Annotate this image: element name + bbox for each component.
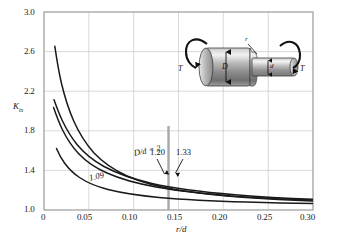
- diagram-label-D: D: [222, 62, 228, 71]
- shaft-large-endcap: [199, 48, 213, 86]
- y-axis-title-subscript: ts: [19, 106, 23, 113]
- y-tick-2-2: 2.2: [24, 86, 35, 96]
- diagram-label-T-left: T: [178, 64, 182, 73]
- curve-label-133: 1.33: [176, 147, 191, 157]
- x-tick-0-30: 0.30: [300, 212, 315, 222]
- y-tick-1-4: 1.4: [24, 165, 35, 175]
- x-tick-0-15: 0.15: [167, 212, 182, 222]
- y-tick-1-8: 1.8: [24, 125, 35, 135]
- diagram-label-r: r: [245, 35, 248, 43]
- y-axis-title: Kts: [13, 101, 23, 113]
- diagram-label-T-right: T: [300, 64, 304, 73]
- y-tick-2-6: 2.6: [24, 46, 35, 56]
- y-tick-3-0: 3.0: [24, 7, 35, 17]
- x-tick-0-20: 0.20: [212, 212, 227, 222]
- x-axis-title: r/d: [176, 224, 187, 234]
- chart-canvas: [0, 0, 341, 245]
- x-tick-0: 0: [41, 212, 45, 222]
- x-tick-0-25: 0.25: [257, 212, 272, 222]
- curve-label-120: 1.20: [150, 147, 165, 157]
- y-tick-1-0: 1.0: [24, 204, 35, 214]
- x-tick-0-05: 0.05: [77, 212, 92, 222]
- x-tick-0-10: 0.10: [122, 212, 137, 222]
- diagram-label-d: d: [270, 62, 274, 70]
- figure-container: 3.0 2.6 2.2 1.8 1.4 1.0 Kts 0 0.05 0.10 …: [0, 0, 341, 245]
